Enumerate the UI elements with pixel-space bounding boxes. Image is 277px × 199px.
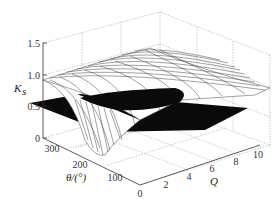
q-tick-6: 6 — [210, 163, 215, 174]
theta-tick-200: 200 — [73, 159, 88, 170]
z-tick-1.0: 1.0 — [28, 70, 41, 81]
q-tick-labels: 0 2 4 6 8 10 — [138, 149, 264, 199]
q-tick-10: 10 — [253, 149, 263, 160]
theta-axis-label: θ/(°) — [66, 171, 87, 184]
q-tick-2: 2 — [164, 179, 169, 190]
q-tick-4: 4 — [187, 171, 192, 182]
q-axis-label: Q — [210, 175, 218, 187]
z-tick-0: 0 — [35, 133, 40, 144]
z-tick-1.5: 1.5 — [28, 38, 41, 49]
theta-tick-300: 300 — [45, 143, 60, 154]
z-axis-label: K s — [13, 82, 26, 97]
svg-text:s: s — [22, 85, 26, 97]
svg-text:K: K — [13, 82, 22, 94]
theta-tick-100: 100 — [108, 172, 123, 183]
surface-chart: 1.5 1.0 0.5 0 K s 300 200 100 θ/(°) 0 2 … — [0, 0, 277, 199]
q-tick-8: 8 — [234, 156, 239, 167]
z-tick-labels: 1.5 1.0 0.5 0 — [28, 38, 41, 144]
q-tick-0: 0 — [138, 188, 143, 199]
z-tick-0.5: 0.5 — [28, 101, 41, 112]
